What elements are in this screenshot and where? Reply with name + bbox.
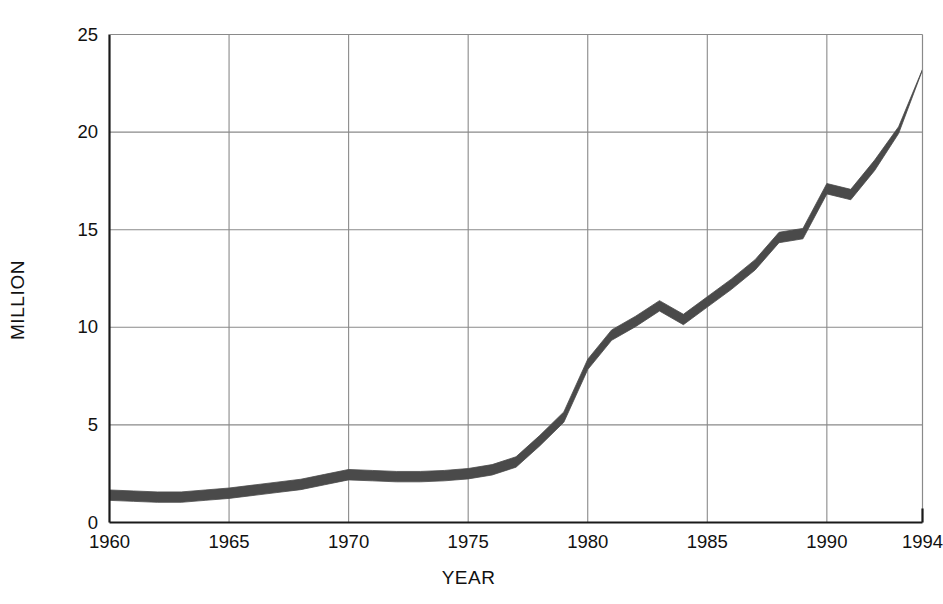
axis-frame xyxy=(110,35,923,523)
x-tick-label: 1965 xyxy=(208,531,249,553)
x-tick-label: 1990 xyxy=(806,531,847,553)
x-tick-label: 1985 xyxy=(687,531,728,553)
data-band xyxy=(110,69,923,502)
y-tick-label: 25 xyxy=(40,24,98,46)
y-tick-label: 15 xyxy=(40,219,98,241)
y-tick-label: 5 xyxy=(40,414,98,436)
x-tick-label: 1970 xyxy=(328,531,369,553)
x-tick-label: 1994 xyxy=(902,531,943,553)
gridlines xyxy=(110,35,923,523)
x-tick-label: 1960 xyxy=(89,531,130,553)
y-tick-label: 20 xyxy=(40,121,98,143)
x-tick-label: 1975 xyxy=(448,531,489,553)
y-tick-label: 10 xyxy=(40,316,98,338)
x-tick-label: 1980 xyxy=(567,531,608,553)
